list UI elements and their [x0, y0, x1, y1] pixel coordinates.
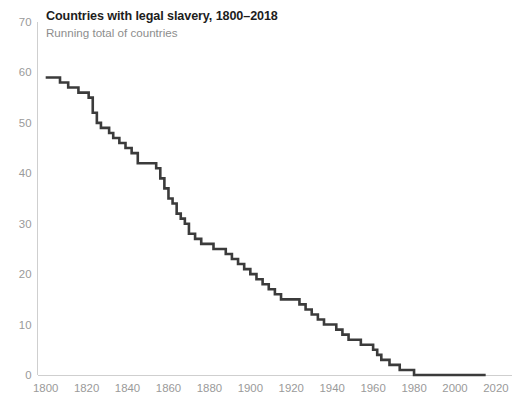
chart-container: Countries with legal slavery, 1800–2018 … — [0, 0, 519, 416]
y-tick-label-30: 30 — [19, 218, 32, 230]
line-chart-svg: 010203040506070 180018201840186018801900… — [0, 0, 519, 416]
x-tick-label-1880: 1880 — [197, 382, 222, 394]
x-tick-label-1860: 1860 — [156, 382, 181, 394]
x-tick-label-1980: 1980 — [401, 382, 426, 394]
x-axis-tick-group: 1800182018401860188019001920194019601980… — [33, 382, 509, 394]
x-tick-label-1920: 1920 — [279, 382, 304, 394]
y-tick-label-70: 70 — [19, 16, 32, 28]
x-tick-label-1800: 1800 — [33, 382, 58, 394]
x-tick-label-1960: 1960 — [360, 382, 385, 394]
data-series-line — [46, 77, 486, 375]
y-tick-label-60: 60 — [19, 66, 32, 78]
x-tick-label-1900: 1900 — [238, 382, 263, 394]
y-tick-label-10: 10 — [19, 319, 32, 331]
x-tick-label-1940: 1940 — [320, 382, 345, 394]
plot-area: 010203040506070 180018201840186018801900… — [0, 0, 519, 416]
y-tick-label-40: 40 — [19, 167, 32, 179]
y-axis-tick-group: 010203040506070 — [19, 16, 32, 381]
x-tick-label-2020: 2020 — [483, 382, 508, 394]
y-tick-label-0: 0 — [25, 369, 31, 381]
x-tick-label-1820: 1820 — [74, 382, 99, 394]
x-tick-label-2000: 2000 — [442, 382, 467, 394]
y-tick-label-50: 50 — [19, 117, 32, 129]
x-tick-label-1840: 1840 — [115, 382, 140, 394]
y-tick-label-20: 20 — [19, 268, 32, 280]
